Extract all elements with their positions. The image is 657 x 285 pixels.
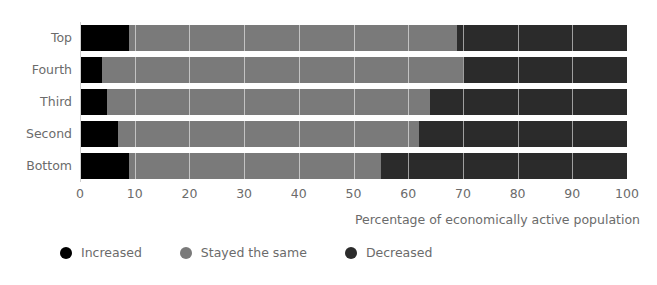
bar-row bbox=[80, 57, 627, 83]
x-tick-label: 0 bbox=[76, 186, 84, 201]
bar-row bbox=[80, 121, 627, 147]
legend-item-stayed-the-same[interactable]: Stayed the same bbox=[180, 245, 307, 260]
bar-segment-decreased bbox=[381, 153, 627, 179]
bar-row bbox=[80, 153, 627, 179]
bar-segment-stayed-the-same bbox=[107, 89, 430, 115]
legend-label: Stayed the same bbox=[201, 245, 307, 260]
y-axis-label-second: Second bbox=[0, 121, 72, 147]
y-axis-label-top: Top bbox=[0, 25, 72, 51]
x-tick-label: 70 bbox=[455, 186, 471, 201]
stacked-bar-chart: TopFourthThirdSecondBottom 0102030405060… bbox=[0, 0, 657, 285]
legend-item-decreased[interactable]: Decreased bbox=[345, 245, 433, 260]
chart-legend: IncreasedStayed the sameDecreased bbox=[60, 245, 432, 260]
legend-label: Increased bbox=[81, 245, 142, 260]
y-axis-label-fourth: Fourth bbox=[0, 57, 72, 83]
y-axis-label-bottom: Bottom bbox=[0, 153, 72, 179]
x-tick-label: 60 bbox=[400, 186, 416, 201]
bar-segment-decreased bbox=[463, 57, 627, 83]
bar-row bbox=[80, 25, 627, 51]
x-tick-label: 40 bbox=[291, 186, 307, 201]
x-axis-tick-labels: 0102030405060708090100 bbox=[80, 186, 627, 204]
bar-segment-increased bbox=[80, 153, 129, 179]
y-axis-category-labels: TopFourthThirdSecondBottom bbox=[0, 22, 72, 182]
bar-row bbox=[80, 89, 627, 115]
legend-item-increased[interactable]: Increased bbox=[60, 245, 142, 260]
bar-segment-decreased bbox=[457, 25, 627, 51]
circle-marker-decreased-icon bbox=[345, 247, 357, 259]
bar-segment-increased bbox=[80, 25, 129, 51]
x-tick-label: 100 bbox=[615, 186, 639, 201]
bar-segment-decreased bbox=[430, 89, 627, 115]
circle-marker-stayed-the-same-icon bbox=[180, 247, 192, 259]
gridline bbox=[627, 22, 628, 182]
bar-segment-stayed-the-same bbox=[129, 25, 457, 51]
y-axis-line bbox=[80, 22, 81, 182]
x-tick-label: 90 bbox=[564, 186, 580, 201]
bar-segment-stayed-the-same bbox=[102, 57, 463, 83]
legend-label: Decreased bbox=[366, 245, 433, 260]
bar-segment-stayed-the-same bbox=[118, 121, 419, 147]
x-tick-label: 10 bbox=[127, 186, 143, 201]
bar-segment-decreased bbox=[419, 121, 627, 147]
x-axis-title: Percentage of economically active popula… bbox=[0, 212, 640, 227]
circle-marker-increased-icon bbox=[60, 247, 72, 259]
plot-area bbox=[80, 22, 627, 182]
x-tick-label: 20 bbox=[181, 186, 197, 201]
x-tick-label: 30 bbox=[236, 186, 252, 201]
bar-segment-increased bbox=[80, 89, 107, 115]
bar-segment-increased bbox=[80, 57, 102, 83]
y-axis-label-third: Third bbox=[0, 89, 72, 115]
x-tick-label: 50 bbox=[346, 186, 362, 201]
bar-segment-stayed-the-same bbox=[129, 153, 381, 179]
bar-segment-increased bbox=[80, 121, 118, 147]
x-tick-label: 80 bbox=[510, 186, 526, 201]
